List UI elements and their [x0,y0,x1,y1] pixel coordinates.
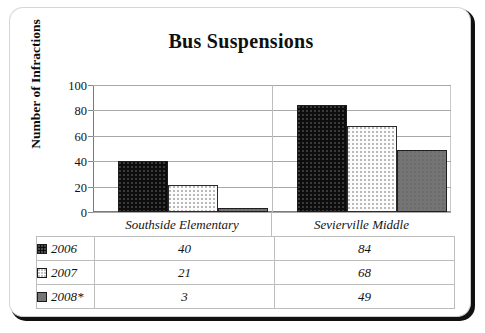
data-table: 2006 40 84 2007 21 68 2008* 3 49 [36,236,455,309]
category-separator [272,85,273,212]
cell-2007-southside-elementary: 21 [95,261,275,285]
ytick-label-0: 0 [81,206,87,221]
plot-area: 100 80 60 40 20 0 [93,85,451,212]
page-title: Bus Suspensions [10,30,472,53]
category-label-sevierville-middle: Sevierville Middle [272,212,451,236]
cell-2006-sevierville-middle: 84 [275,237,455,261]
legend-label-2008: 2008* [51,289,84,304]
legend-swatch-2006-icon [37,244,47,254]
table-row: 2006 40 84 [37,237,455,261]
category-label-band: Southside Elementary Sevierville Middle [93,212,451,236]
table-row: 2008* 3 49 [37,285,455,309]
legend-label-2007: 2007 [51,265,77,280]
y-axis-title: Number of Infractions [28,14,44,154]
category-label-southside-elementary: Southside Elementary [93,212,272,236]
bar-2007-southside-elementary[interactable] [168,185,218,212]
cell-2006-southside-elementary: 40 [95,237,275,261]
table-row: 2007 21 68 [37,261,455,285]
legend-swatch-2007-icon [37,268,47,278]
ytick-label-40: 40 [75,155,88,170]
bar-2008-sevierville-middle[interactable] [397,150,447,212]
legend-cell-2007: 2007 [37,261,95,285]
cell-2007-sevierville-middle: 68 [275,261,455,285]
ytick-label-80: 80 [75,104,88,119]
cell-2008-sevierville-middle: 49 [275,285,455,309]
bar-2007-sevierville-middle[interactable] [347,126,397,212]
ytick-label-20: 20 [75,180,88,195]
chart-card-frame: Bus Suspensions Number of Infractions 10… [9,7,471,317]
legend-label-2006: 2006 [51,241,77,256]
bar-2006-southside-elementary[interactable] [118,161,168,212]
cell-2008-southside-elementary: 3 [95,285,275,309]
bar-2006-sevierville-middle[interactable] [297,105,347,212]
legend-swatch-2008-icon [37,292,47,302]
legend-cell-2006: 2006 [37,237,95,261]
ytick-label-60: 60 [75,129,88,144]
legend-cell-2008: 2008* [37,285,95,309]
ytick-label-100: 100 [68,79,87,94]
